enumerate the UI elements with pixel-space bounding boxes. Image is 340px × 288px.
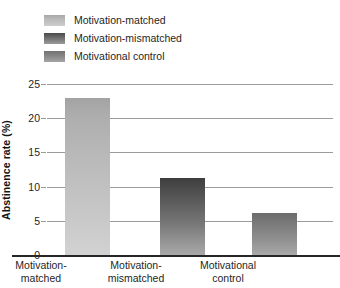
gridline-25: 25: [47, 84, 333, 85]
tick-mark-25: [41, 84, 46, 85]
legend-swatch-motivational-control: [44, 51, 65, 62]
tick-mark-15: [41, 152, 46, 153]
legend-label-motivation-mismatched: Motivation-mismatched: [74, 33, 182, 44]
tick-mark-5: [41, 221, 46, 222]
legend-item-motivation-matched: Motivation-matched: [44, 11, 182, 29]
x-label-line-1: Motivational: [173, 259, 283, 272]
legend-item-motivational-control: Motivational control: [44, 47, 182, 65]
tick-mark-10: [41, 187, 46, 188]
chart-legend: Motivation-matched Motivation-mismatched…: [44, 11, 182, 65]
plot-area: 25 20 15 10 5 0: [47, 84, 333, 255]
tick-mark-20: [41, 118, 46, 119]
bar-motivation-mismatched: [160, 178, 205, 255]
x-label-line-2: control: [173, 272, 283, 285]
y-tick-label-15: 15: [28, 147, 40, 158]
y-axis-title: Abstinence rate (%): [0, 84, 13, 255]
bar-chart-figure: Motivation-matched Motivation-mismatched…: [0, 0, 340, 288]
y-tick-label-20: 20: [28, 113, 40, 124]
y-tick-label-10: 10: [28, 182, 40, 193]
x-axis-label-motivational-control: Motivational control: [173, 259, 283, 284]
legend-item-motivation-mismatched: Motivation-mismatched: [44, 29, 182, 47]
y-tick-label-25: 25: [28, 79, 40, 90]
legend-label-motivational-control: Motivational control: [74, 51, 164, 62]
bar-motivational-control: [252, 213, 297, 255]
x-axis-baseline: [12, 255, 340, 257]
legend-swatch-motivation-mismatched: [44, 33, 65, 44]
y-axis-title-text: Abstinence rate (%): [0, 120, 12, 220]
bar-motivation-matched: [65, 98, 110, 255]
legend-swatch-motivation-matched: [44, 15, 65, 26]
y-tick-label-5: 5: [34, 216, 40, 227]
legend-label-motivation-matched: Motivation-matched: [74, 15, 166, 26]
